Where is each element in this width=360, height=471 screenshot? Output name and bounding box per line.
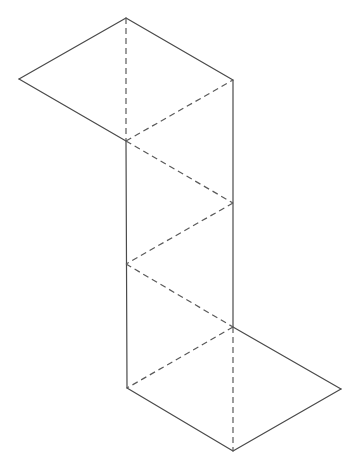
cut-edge-IG xyxy=(233,327,341,389)
fold-edge-FG xyxy=(126,264,233,327)
fold-edge-GH xyxy=(127,327,233,388)
fold-edges xyxy=(126,18,233,451)
cut-edge-AB xyxy=(19,18,126,79)
cut-edges xyxy=(19,18,341,451)
cut-edge-JI xyxy=(233,389,341,451)
cut-edge-AC xyxy=(126,18,233,80)
fold-edge-DC xyxy=(126,80,233,141)
fold-edge-EF xyxy=(126,203,233,264)
octahedron-net-diagram xyxy=(0,0,360,471)
cut-edge-HJ xyxy=(127,388,233,451)
fold-edge-DE xyxy=(126,141,233,203)
cut-edge-BD xyxy=(19,79,126,141)
